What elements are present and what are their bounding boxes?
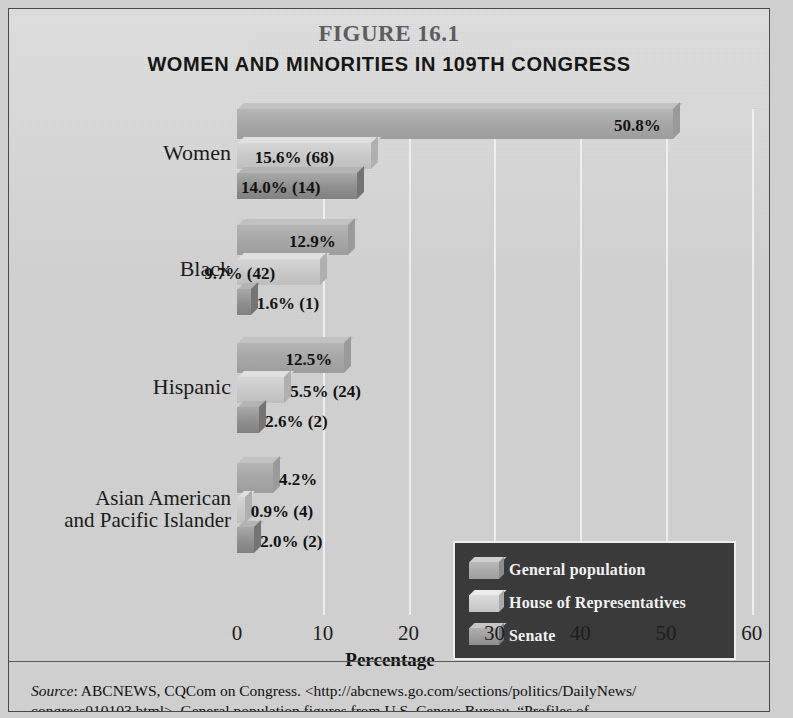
bar-value-label: 15.6% (68) [255, 148, 334, 168]
bar-value-label: 9.7% (42) [204, 264, 275, 284]
bar-percent: 12.5% [286, 350, 333, 369]
bar-percent: 1.6% [257, 294, 295, 313]
legend-swatch-part [469, 595, 499, 612]
bar-top-cap [238, 337, 354, 343]
bar-value-label: 0.9% (4) [251, 502, 313, 522]
bar-senate [237, 527, 254, 553]
x-tick-10: 10 [303, 621, 343, 646]
legend-item-general: General population [469, 553, 734, 586]
bar-top-cap [238, 137, 381, 143]
bar-senate [237, 289, 251, 315]
bar-group: Black12.9%9.7% (42)1.6% (1) [9, 225, 770, 335]
legend-swatch-part [499, 557, 504, 579]
bar-count: (42) [242, 264, 275, 283]
bar-top-cap [238, 253, 330, 259]
bar-side-face [357, 166, 364, 199]
bar-percent: 4.2% [279, 470, 317, 489]
figure-frame: FIGURE 16.1 WOMEN AND MINORITIES IN 109T… [8, 8, 770, 712]
bar-value-label: 14.0% (14) [241, 178, 320, 198]
bar-value-label: 5.5% (24) [290, 382, 361, 402]
bar-group: Women50.8%15.6% (68)14.0% (14) [9, 109, 770, 219]
legend-swatch-house-icon [469, 595, 499, 612]
source-note-line-2: congress010103.html>. General population… [31, 701, 751, 712]
bar-percent: 2.6% [265, 412, 303, 431]
bar-face [237, 463, 273, 493]
figure-title: WOMEN AND MINORITIES IN 109TH CONGRESS [9, 53, 769, 76]
category-label: Women [8, 141, 231, 164]
source-note-line-1: Source: ABCNEWS, CQCom on Congress. <htt… [31, 681, 751, 701]
bar-side-face [673, 102, 680, 139]
bar-percent: 15.6% [255, 148, 302, 167]
source-label: Source [31, 682, 73, 699]
bar-count: (68) [302, 148, 335, 167]
bar-percent: 14.0% [241, 178, 288, 197]
bar-face [237, 377, 284, 403]
x-tick-60: 60 [732, 621, 770, 646]
category-label: Black [8, 257, 231, 280]
legend-label: House of Representatives [509, 594, 686, 612]
bar-side-face [320, 252, 327, 285]
x-tick-40: 40 [560, 621, 600, 646]
bar-value-label: 50.8% [614, 116, 661, 136]
bar-value-label: 2.6% (2) [265, 412, 327, 432]
x-tick-0: 0 [217, 621, 257, 646]
bar-general [237, 109, 673, 139]
bar-value-label: 4.2% [279, 470, 317, 490]
bar-count: (2) [298, 532, 322, 551]
bar-value-label: 1.6% (1) [257, 294, 319, 314]
legend-swatch-part [499, 590, 504, 612]
bar-percent: 9.7% [204, 264, 242, 283]
x-tick-30: 30 [474, 621, 514, 646]
bar-general [237, 463, 273, 493]
bar-percent: 50.8% [614, 116, 661, 135]
bar-percent: 2.0% [260, 532, 298, 551]
plot-area: Women50.8%15.6% (68)14.0% (14)Black12.9%… [9, 95, 770, 615]
source-note: Source: ABCNEWS, CQCom on Congress. <htt… [31, 681, 751, 712]
bar-side-face [348, 218, 355, 255]
figure-number: FIGURE 16.1 [9, 21, 769, 47]
bar-count: (4) [289, 502, 313, 521]
category-label: Hispanic [8, 375, 231, 398]
bar-count: (1) [295, 294, 319, 313]
bar-top-cap [238, 103, 683, 109]
bar-count: (24) [328, 382, 361, 401]
x-axis-title: Percentage [9, 649, 770, 671]
bar-top-cap [238, 167, 367, 173]
bar-side-face [344, 336, 351, 373]
bar-value-label: 2.0% (2) [260, 532, 322, 552]
legend-label: General population [509, 561, 646, 579]
x-tick-20: 20 [389, 621, 429, 646]
bar-value-label: 12.5% [286, 350, 333, 370]
bar-value-label: 12.9% [289, 232, 336, 252]
bar-percent: 5.5% [290, 382, 328, 401]
bar-percent: 0.9% [251, 502, 289, 521]
legend-swatch-general-icon [469, 562, 499, 579]
bar-face [237, 527, 254, 553]
bar-top-cap [238, 219, 358, 225]
bar-house [237, 377, 284, 403]
category-label: Asian Americanand Pacific Islander [8, 487, 231, 531]
bar-face [237, 289, 251, 315]
bar-count: (2) [304, 412, 328, 431]
bar-senate [237, 407, 259, 433]
bar-house [237, 497, 245, 523]
bar-side-face [371, 136, 378, 169]
bar-face [237, 407, 259, 433]
bar-face [237, 109, 673, 139]
x-tick-50: 50 [646, 621, 686, 646]
bar-count: (14) [288, 178, 321, 197]
bar-face [237, 497, 245, 523]
source-divider [9, 661, 770, 662]
bar-percent: 12.9% [289, 232, 336, 251]
legend-swatch-part [469, 562, 499, 579]
bar-group: Hispanic12.5%5.5% (24)2.6% (2) [9, 343, 770, 453]
category-label-line2: and Pacific Islander [8, 509, 231, 531]
source-note-text-1: : ABCNEWS, CQCom on Congress. <http://ab… [73, 682, 636, 699]
